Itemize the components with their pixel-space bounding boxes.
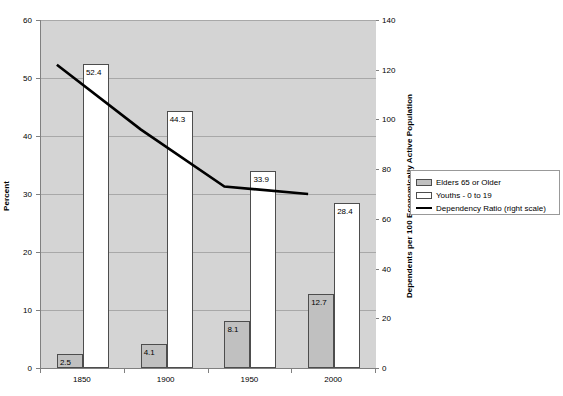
legend-label-youths: Youths - 0 to 19 — [436, 191, 492, 200]
chart-figure: Percent Dependents per 100 Economically … — [0, 0, 563, 396]
y-axis-left-tick-label: 50 — [0, 74, 32, 83]
x-axis-tick-mark — [208, 369, 209, 373]
y-axis-left-tick-label: 60 — [0, 16, 32, 25]
x-axis-tick-mark — [40, 369, 41, 373]
y-axis-right-tick-label: 40 — [382, 264, 391, 273]
y-axis-left-tick-label: 10 — [0, 306, 32, 315]
y-axis-right-tick-label: 80 — [382, 165, 391, 174]
x-axis-tick-mark — [291, 369, 292, 373]
x-axis-tick-label: 1950 — [240, 375, 258, 384]
x-axis-tick-label: 1850 — [73, 375, 91, 384]
x-axis-tick-label: 1900 — [157, 375, 175, 384]
plot-area: 2.552.44.144.38.133.912.728.4 — [40, 20, 376, 369]
legend-label-elders: Elders 65 or Older — [436, 178, 501, 187]
y-axis-left-tick-label: 20 — [0, 248, 32, 257]
y-axis-right-tick-label: 20 — [382, 314, 391, 323]
legend-item-youths: Youths - 0 to 19 — [416, 189, 554, 201]
y-axis-left-tick-label: 40 — [0, 132, 32, 141]
x-axis-tick-mark — [375, 369, 376, 373]
y-axis-right-tick-label: 100 — [382, 115, 395, 124]
legend-line-icon-dependency-ratio — [416, 207, 432, 209]
y-axis-right-tick-label: 140 — [382, 16, 395, 25]
y-axis-right-tick-label: 60 — [382, 214, 391, 223]
y-axis-left-tick-label: 30 — [0, 190, 32, 199]
x-axis-tick-label: 2000 — [324, 375, 342, 384]
legend-swatch-icon-elders — [416, 179, 432, 186]
legend-swatch-icon-youths — [416, 192, 432, 199]
legend-label-dependency-ratio: Dependency Ratio (right scale) — [436, 204, 546, 213]
legend-item-elders: Elders 65 or Older — [416, 176, 554, 188]
y-axis-left-tick-label: 0 — [0, 364, 32, 373]
y-axis-right-tick-label: 0 — [382, 364, 386, 373]
line-series-dependency-ratio — [41, 20, 376, 368]
x-axis-tick-mark — [124, 369, 125, 373]
legend-item-dependency-ratio: Dependency Ratio (right scale) — [416, 202, 554, 214]
y-axis-right-tick-label: 120 — [382, 65, 395, 74]
chart-legend: Elders 65 or Older Youths - 0 to 19 Depe… — [410, 170, 560, 215]
